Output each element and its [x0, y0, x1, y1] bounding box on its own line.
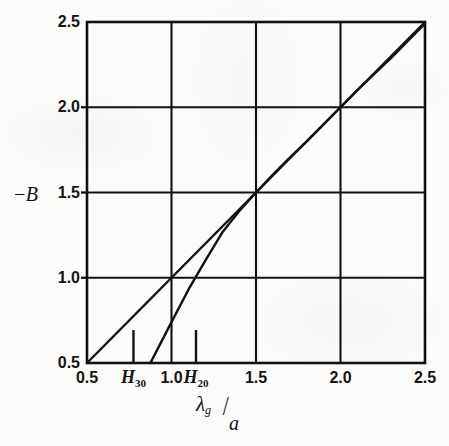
annotation-label-H20: H20 [166, 367, 226, 389]
lambda-subscript: g [205, 403, 211, 417]
x-axis-title: λg / a [196, 392, 266, 442]
x-tick-label-2.0: 2.0 [316, 369, 366, 387]
figure-root: 0.51.01.52.02.5 0.51.01.52.02.5 H30H20 −… [0, 0, 449, 446]
annotation-label-subscript: 20 [198, 377, 209, 389]
annotation-label-H30: H30 [103, 367, 163, 389]
y-tick-label-1.0: 1.0 [38, 269, 80, 287]
y-tick-label-2.0: 2.0 [38, 98, 80, 116]
x-tick-label-1.5: 1.5 [231, 369, 281, 387]
x-axis-title-numerator: λg [196, 392, 211, 418]
lambda-glyph: λ [196, 392, 205, 416]
y-tick-label-1.5: 1.5 [38, 184, 80, 202]
annotation-label-symbol: H [183, 367, 197, 387]
y-axis-title-symbol: B [26, 183, 39, 205]
y-axis-title-minus: − [14, 183, 26, 205]
annotation-label-symbol: H [121, 367, 135, 387]
x-tick-label-2.5: 2.5 [400, 369, 449, 387]
fraction-slash: / [223, 391, 229, 422]
x-axis-title-denominator: a [229, 412, 239, 435]
y-tick-label-2.5: 2.5 [38, 13, 80, 31]
annotation-label-subscript: 30 [135, 377, 146, 389]
y-axis-title: −B [14, 183, 39, 206]
